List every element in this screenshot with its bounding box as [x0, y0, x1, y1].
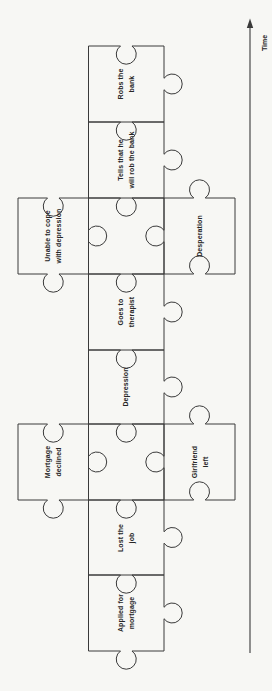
applied-for-mortgage-piece: [89, 575, 183, 669]
lost-the-job-piece: [89, 500, 183, 575]
girlfriend-left-piece: [146, 406, 235, 500]
scanned-page: Robs the bankTells that he will rob the …: [0, 0, 272, 691]
unable-to-cope-with-depression-piece: [18, 198, 107, 292]
puzzle-flowchart: [0, 0, 272, 691]
depression-piece: [89, 350, 183, 424]
robs-the-bank-piece: [89, 46, 183, 122]
connector-upper-piece: [89, 198, 165, 274]
tells-that-he-will-rob-the-bank-piece: [89, 122, 183, 198]
desperation-piece: [146, 180, 235, 274]
mortgage-declined-piece: [18, 424, 107, 518]
goes-to-therapist-piece: [89, 274, 183, 350]
time-axis: [247, 19, 253, 654]
time-axis-arrowhead-icon: [247, 19, 253, 29]
connector-lower-piece: [89, 424, 165, 500]
